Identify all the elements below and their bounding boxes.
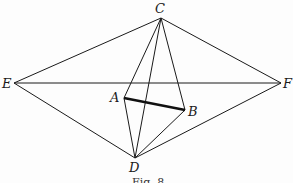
segment-cb: [161, 18, 185, 110]
label-b: B: [188, 105, 198, 118]
segment-cf: [161, 18, 281, 83]
label-c: C: [155, 2, 165, 15]
figure-caption: Fig. 8: [132, 177, 164, 183]
label-f: F: [283, 77, 292, 90]
label-d: D: [129, 161, 139, 174]
segment-ce: [14, 18, 161, 83]
label-e: E: [2, 77, 12, 90]
segment-ad: [124, 98, 135, 158]
geometry-figure: C E F A B D Fig. 8: [0, 0, 293, 183]
segment-ca: [124, 18, 161, 98]
segment-ab-bold: [124, 98, 185, 110]
label-a: A: [110, 91, 119, 104]
figure-lines: [0, 0, 293, 183]
segment-fd: [135, 83, 281, 158]
